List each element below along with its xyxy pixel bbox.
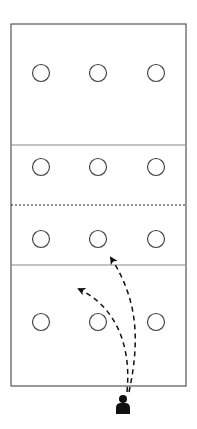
player-icon [116, 395, 130, 414]
cone-icon [148, 314, 165, 331]
movement-path-to-left-back [79, 289, 128, 392]
movement-path-to-middle-front [111, 258, 135, 392]
cone-icon [90, 159, 107, 176]
cone-icon [33, 314, 50, 331]
cone-icon [148, 231, 165, 248]
cone-icon [90, 314, 107, 331]
cone-icon [33, 159, 50, 176]
cone-icon [148, 159, 165, 176]
cone-icon [90, 231, 107, 248]
cone-icon [33, 65, 50, 82]
court-diagram [0, 0, 197, 429]
cone-icon [90, 65, 107, 82]
cones [33, 65, 165, 331]
cone-icon [33, 231, 50, 248]
cone-icon [148, 65, 165, 82]
